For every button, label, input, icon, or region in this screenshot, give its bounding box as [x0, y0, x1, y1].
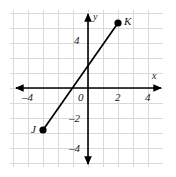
tick-x-4: 4	[145, 92, 151, 103]
segment-jk	[43, 23, 118, 130]
tick-x-2: 2	[115, 92, 121, 103]
tick-y-minus2: –2	[69, 113, 80, 124]
y-axis-label: y	[93, 12, 97, 22]
x-axis-label: x	[152, 71, 156, 81]
tick-y-4: 4	[74, 35, 80, 46]
point-k-label: K	[124, 16, 131, 27]
tick-y-minus4: –4	[69, 143, 80, 154]
point-j	[39, 126, 46, 133]
point-k	[114, 19, 121, 26]
coordinate-plane-figure: y x 0 –4 2 4 4 –2 –4 J K	[0, 0, 176, 177]
point-j-label: J	[31, 124, 36, 135]
tick-x-minus4: –4	[22, 92, 33, 103]
tick-origin: 0	[78, 92, 84, 103]
axes-and-data	[0, 0, 176, 177]
